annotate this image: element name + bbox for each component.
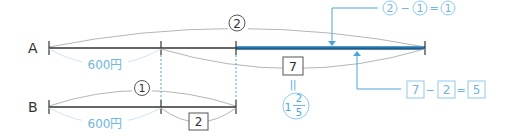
- callout-ratio-eq: =: [429, 2, 438, 15]
- mixed-whole: 1: [285, 101, 292, 114]
- a-part-amount: 600円: [88, 58, 123, 72]
- callout-box-eq: =: [456, 84, 465, 97]
- callout-ratio-left: 2: [387, 2, 394, 15]
- arrow-up-icon: [353, 51, 361, 56]
- a-remainder-value: 7: [289, 59, 297, 74]
- callout-ratio-leader: [332, 8, 378, 42]
- arrow-down-icon: [328, 41, 336, 46]
- callout-ratio-result: 1: [445, 2, 452, 15]
- equals-vertical: ||: [290, 79, 297, 91]
- callout-ratio-right: 1: [417, 2, 424, 15]
- mixed-numerator: 2: [296, 93, 302, 104]
- b-remainder-value: 2: [195, 115, 203, 129]
- callout-ratio-diff: 2 − 1 = 1: [383, 1, 455, 15]
- row-b-label: B: [28, 99, 38, 115]
- callout-box-result: 5: [473, 83, 481, 97]
- row-a-label: A: [28, 40, 38, 56]
- callout-box-left: 7: [412, 83, 420, 97]
- callout-box-right: 2: [443, 83, 451, 97]
- callout-ratio-op: −: [400, 2, 409, 15]
- callout-box-diff: 7 − 2 = 5: [407, 81, 485, 98]
- b-part-amount: 600円: [88, 117, 123, 131]
- mixed-denominator: 5: [296, 107, 302, 118]
- callout-box-op: −: [425, 84, 434, 97]
- a-total-ratio: 2: [233, 17, 241, 31]
- line-segment-diagram: A 2 600円 7 || 1 2 5 B 1 600円 2: [0, 0, 518, 136]
- b-total-ratio: 1: [139, 82, 146, 95]
